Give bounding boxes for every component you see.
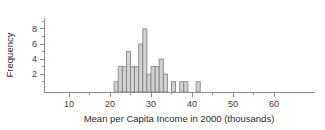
x-tick-label: 20 xyxy=(105,99,115,109)
histogram-bar xyxy=(184,82,188,92)
histogram-bar xyxy=(143,29,147,92)
histogram-bar xyxy=(180,82,184,92)
histogram-bar xyxy=(139,44,143,92)
histogram-bars xyxy=(114,29,200,92)
x-axis-title: Mean per Capita Income in 2000 (thousand… xyxy=(84,113,275,124)
y-axis-ticks: 2468 xyxy=(32,21,44,81)
y-tick-label: 2 xyxy=(32,69,37,79)
x-tick-label: 30 xyxy=(146,99,156,109)
histogram-bar xyxy=(196,82,200,92)
histogram-bar xyxy=(131,67,135,92)
histogram-bar xyxy=(118,67,122,92)
y-tick-label: 6 xyxy=(32,39,37,49)
x-axis-ticks: 102030405060 xyxy=(64,92,279,109)
x-tick-label: 10 xyxy=(64,99,74,109)
histogram-bar xyxy=(147,74,151,92)
histogram-bar xyxy=(155,67,159,92)
y-tick-label: 4 xyxy=(32,54,37,64)
histogram-bar xyxy=(114,82,118,92)
histogram-figure: 102030405060 2468 Mean per Capita Income… xyxy=(0,0,325,130)
histogram-bar xyxy=(122,67,126,92)
x-tick-label: 60 xyxy=(269,99,279,109)
y-axis-title: Frequency xyxy=(4,32,15,77)
y-tick-label: 8 xyxy=(32,24,37,34)
chart-canvas: 102030405060 2468 Mean per Capita Income… xyxy=(0,0,325,130)
histogram-bar xyxy=(159,59,163,92)
histogram-bar xyxy=(135,67,139,92)
chart-axes xyxy=(44,18,315,93)
x-tick-label: 50 xyxy=(228,99,238,109)
x-tick-label: 40 xyxy=(187,99,197,109)
histogram-bar xyxy=(151,67,155,92)
histogram-bar xyxy=(172,82,176,92)
histogram-bar xyxy=(163,74,167,92)
histogram-bar xyxy=(126,52,130,92)
